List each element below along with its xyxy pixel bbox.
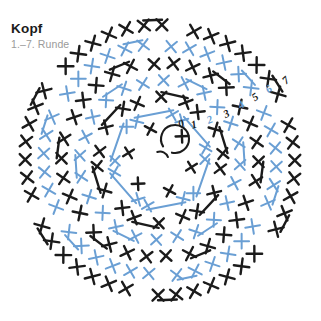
stitch-symbol [106,259,120,273]
stitch-symbol [149,59,160,70]
increase-bar [111,124,124,161]
stitch-symbol [79,131,92,144]
stitch-symbol [137,78,149,90]
stitch-symbol [34,218,49,233]
magic-ring-loop [161,125,189,153]
stitch-symbol [235,45,250,60]
stitch-symbol [205,257,219,271]
stitch-symbol [215,163,226,174]
stitch-symbol [187,284,200,297]
stitch-symbol [86,110,100,124]
stitch-symbol [220,269,235,284]
increase-bar [90,236,106,249]
stitch-symbol [151,234,161,244]
increase-bar [213,71,229,84]
increase-bar [102,105,120,125]
stitch-symbol [143,268,154,279]
increase-bar [75,155,76,178]
stitch-symbol [216,227,231,242]
stitch-symbol [239,196,253,210]
stitch-symbol [277,206,291,220]
stitch-symbol [221,247,236,262]
increase-bar [110,62,129,70]
stitch-symbol [89,250,104,265]
magic-ring-icon [157,125,189,157]
stitch-symbol [145,124,156,135]
stitch-symbol [171,230,183,242]
stitch-symbol [186,61,199,74]
round-1 [123,124,197,197]
increase-bar [196,159,209,196]
stitch-symbol [289,155,300,166]
stitch-symbol [257,106,271,120]
stitch-symbol [121,246,134,259]
stitch-symbol [82,190,95,203]
stitch-symbol [220,36,235,51]
stitch-symbol [141,251,153,263]
stitch-symbol [168,58,180,70]
stitch-symbol [160,250,171,261]
stitch-symbol [119,22,132,35]
stitch-symbol [203,68,217,82]
stitch-symbol [85,36,100,51]
stitch-symbol [85,59,100,74]
stitch-symbol [186,162,197,173]
round-5 [56,58,264,263]
stitch-symbol [234,259,249,274]
stitch-symbol [119,282,132,295]
stitch-symbol [23,117,37,131]
stitch-symbol [129,230,142,243]
increase-bar [198,223,217,236]
stitch-symbol [102,277,116,291]
stitch-symbol [71,71,86,86]
increase-bar [110,173,136,203]
stitch-symbol [287,136,299,148]
stitch-symbol [76,93,91,108]
increase-bar [103,84,122,97]
stitch-symbol [265,123,278,136]
stitch-symbol [132,177,145,190]
round-label-3: 3 [220,107,232,121]
stitch-symbol [96,206,110,220]
stitch-symbol [20,135,32,147]
increase-bar [191,250,210,258]
stitch-symbol [57,172,69,184]
stitch-symbol [270,142,282,154]
stitch-symbol [63,190,77,204]
stitch-symbol [200,142,212,154]
stitch-symbol [67,110,81,124]
stitch-symbol [229,213,244,228]
increase-bar [219,127,227,153]
round-label-5: 5 [249,90,261,103]
round-4 [75,75,246,245]
stitch-symbol [288,172,300,184]
stitch-symbol [61,225,76,240]
stitch-symbol [200,47,214,61]
stitch-symbol [42,184,55,197]
stitch-symbol [183,42,196,55]
stitch-symbol [38,148,49,159]
round-label-7: 7 [279,73,291,86]
increase-bar [186,79,206,89]
increase-bar [243,142,244,165]
increase-bar [200,195,218,215]
stitch-symbol [101,49,115,63]
stitch-symbol [183,247,196,260]
stitch-symbol [204,278,218,292]
increase-bar [65,235,78,249]
stitch-symbol [115,201,129,215]
increase-bar [38,228,48,244]
increase-bar [280,215,289,232]
stitch-symbol [21,171,33,183]
magic-ring-tail [157,152,168,158]
stitch-symbol [176,210,189,223]
stitch-symbol [234,234,249,249]
stitch-symbol [123,147,134,158]
stitch-symbol [271,161,282,172]
stitch-symbol [69,259,84,274]
stitch-symbol [247,246,263,262]
increase-bar [242,71,255,85]
stitch-symbol [217,55,232,70]
crochet-chart-page: Kopf 1.–7. Runde 01234567 [0,0,321,321]
stitch-symbol [164,185,175,196]
